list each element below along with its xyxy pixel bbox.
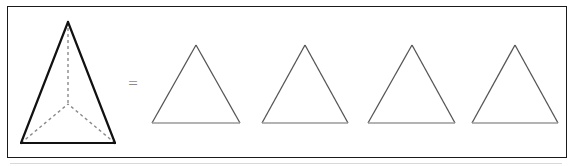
bottom-rule [10, 163, 562, 164]
triangle-4-right-edge [515, 45, 558, 123]
triangle-3-right-edge [412, 45, 455, 123]
figure-root: = [0, 0, 574, 166]
triangle-1-left-edge [152, 45, 196, 123]
triangle-3 [368, 45, 455, 123]
triangle-2-right-edge [305, 45, 348, 123]
equals-sign: = [123, 72, 143, 96]
figure-canvas [0, 0, 574, 166]
tetra-edge-apex-left [21, 22, 68, 143]
triangle-2 [262, 45, 348, 123]
triangle-1 [152, 45, 240, 123]
triangle-3-left-edge [368, 45, 412, 123]
triangle-2-left-edge [262, 45, 305, 123]
tetrahedron [21, 22, 115, 143]
triangle-4-left-edge [472, 45, 515, 123]
triangle-4 [472, 45, 558, 123]
triangle-1-right-edge [196, 45, 240, 123]
tetra-edge-apex-right [68, 22, 115, 143]
